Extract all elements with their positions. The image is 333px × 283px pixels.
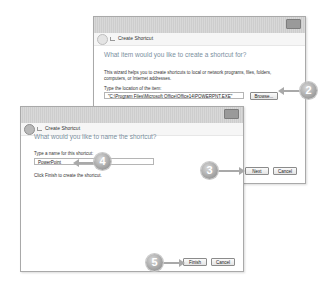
callout-arrow-5 [163, 262, 180, 264]
nav-bar: Create Shortcut [94, 33, 305, 46]
wizard-description: This wizard helps you to create shortcut… [104, 70, 284, 82]
title-bar [21, 107, 243, 123]
shortcut-icon [37, 127, 42, 131]
step-callout-5: 5 [146, 254, 163, 271]
next-button[interactable]: Next [245, 167, 269, 175]
shortcut-icon [110, 37, 115, 41]
step-callout-3: 3 [201, 162, 218, 179]
window-title: Create Shortcut [45, 125, 80, 131]
finish-button[interactable]: Finish [183, 258, 207, 266]
close-button[interactable] [286, 19, 301, 29]
title-bar [94, 17, 305, 33]
create-shortcut-window-name: Create Shortcut What would you like to n… [20, 106, 244, 272]
finish-instruction: Click Finish to create the shortcut. [34, 173, 102, 179]
close-button[interactable] [224, 109, 239, 119]
callout-arrow-3 [218, 170, 240, 172]
cancel-button[interactable]: Cancel [211, 258, 235, 266]
browse-button[interactable]: Browse... [250, 92, 278, 100]
location-input[interactable]: "C:\Program Files\Microsoft Office\Offic… [104, 92, 244, 99]
step-callout-2: 2 [300, 82, 317, 99]
cancel-button[interactable]: Cancel [273, 167, 297, 175]
page-heading: What item would you like to create a sho… [104, 51, 246, 58]
page-heading: What would you like to name the shortcut… [34, 133, 156, 140]
step-callout-4: 4 [94, 153, 111, 170]
window-title: Create Shortcut [118, 35, 153, 41]
callout-arrow-2 [283, 90, 300, 92]
back-arrow-icon[interactable] [97, 34, 108, 45]
name-label: Type a name for this shortcut: [34, 151, 93, 157]
